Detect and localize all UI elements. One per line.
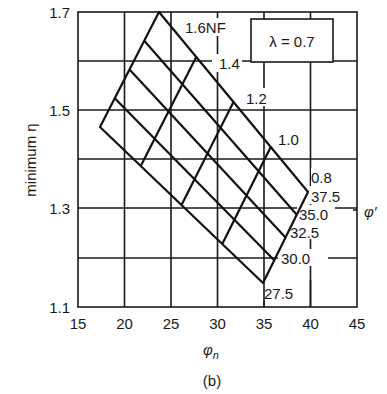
svg-text:30: 30 xyxy=(209,315,226,332)
svg-text:15: 15 xyxy=(70,315,87,332)
svg-text:1.3: 1.3 xyxy=(49,200,70,217)
lambda-annotation: λ = 0.7 xyxy=(251,19,333,62)
label-nf-0-8: 0.8 xyxy=(311,169,332,186)
svg-text:45: 45 xyxy=(349,315,366,332)
label-nf-1-0: 1.0 xyxy=(278,131,299,148)
svg-text:1.7: 1.7 xyxy=(49,4,70,21)
figure-caption: (b) xyxy=(203,372,221,389)
label-nf-1-6: 1.6NF xyxy=(185,19,226,36)
lambda-text: λ = 0.7 xyxy=(269,33,314,50)
x-axis-ticks: 15 20 25 30 35 40 45 xyxy=(70,315,366,332)
y-axis-ticks: 1.7 1.5 1.3 1.1 xyxy=(49,4,70,316)
svg-text:40: 40 xyxy=(302,315,319,332)
x-axis-title: φn xyxy=(203,341,219,361)
y-axis-title: minimum η xyxy=(22,123,39,196)
label-nf-1-2: 1.2 xyxy=(246,90,267,107)
svg-text:20: 20 xyxy=(116,315,133,332)
label-phi-35-0: 35.0 xyxy=(299,206,328,223)
label-phi-27-5: 27.5 xyxy=(264,285,293,302)
label-phi-30-0: 30.0 xyxy=(281,250,310,267)
svg-text:25: 25 xyxy=(163,315,180,332)
svg-text:1.5: 1.5 xyxy=(49,102,70,119)
chart-canvas: λ = 0.7 1.6NF 1.4 1.2 1.0 0.8 37.5 35.0 … xyxy=(0,0,387,394)
label-nf-1-4: 1.4 xyxy=(219,55,240,72)
svg-text:1.1: 1.1 xyxy=(49,299,70,316)
right-axis-label: φ′ xyxy=(364,203,378,220)
label-phi-37-5: 37.5 xyxy=(311,188,340,205)
label-phi-32-5: 32.5 xyxy=(290,224,319,241)
svg-text:35: 35 xyxy=(256,315,273,332)
